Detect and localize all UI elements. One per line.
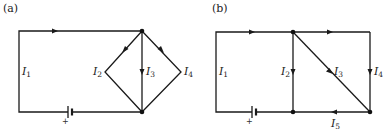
arrow-diagonal-icon (326, 68, 333, 74)
circuit-figure: (a) + I1 I2 I3 I4 (b) (0, 0, 392, 133)
label-b-i5: I5 (330, 117, 340, 131)
label-a-i4: I4 (183, 65, 193, 79)
node-b-bottom-mid (291, 110, 296, 115)
label-a-i2: I2 (92, 65, 102, 79)
label-b-i2: I2 (280, 65, 290, 79)
node-b-bottom-right (368, 110, 373, 115)
node-b-top (291, 30, 296, 35)
arrow-down-icon (368, 69, 373, 75)
label-b-i1: I1 (218, 65, 228, 79)
battery-a-plus: + (62, 117, 69, 126)
node-a-top (140, 29, 145, 34)
circuit-b: (b) + I1 I2 I3 I4 I5 (212, 2, 383, 131)
label-b-i3: I3 (333, 65, 343, 79)
panel-a-caption: (a) (3, 2, 18, 15)
label-a-i3: I3 (145, 65, 155, 79)
arrow-left-icon (331, 110, 337, 115)
circuit-a: (a) + I1 I2 I3 I4 (3, 2, 193, 126)
arrow-right-icon (52, 29, 58, 34)
node-a-bottom (140, 110, 145, 115)
arrow-right-icon (327, 30, 333, 35)
label-a-i1: I1 (21, 65, 31, 79)
panel-b-caption: (b) (212, 2, 228, 15)
label-b-i4: I4 (373, 65, 383, 79)
wire-a-branch-2 (105, 31, 142, 112)
battery-b-plus: + (246, 117, 253, 126)
wire-a-left-loop (19, 31, 142, 112)
arrow-down-icon (140, 69, 145, 75)
arrow-right-icon (249, 30, 255, 35)
arrow-down-right-icon (158, 46, 165, 53)
arrow-down-icon (291, 69, 296, 75)
